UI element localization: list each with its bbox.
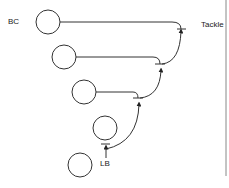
curved-arrow-2: [140, 70, 161, 98]
diagram-canvas: [0, 0, 229, 188]
route-line-3: [96, 92, 138, 98]
play-diagram: BC Tackle LB: [0, 0, 229, 188]
player-circle-2: [52, 45, 76, 69]
player-circle-3: [72, 80, 96, 104]
player-circle-1: [36, 10, 60, 34]
curved-arrow-1: [106, 104, 139, 149]
label-tackle: Tackle: [201, 21, 224, 29]
label-bc: BC: [8, 18, 19, 26]
curved-arrow-3: [162, 31, 181, 64]
label-lb: LB: [100, 160, 110, 168]
player-circle-5: [68, 153, 92, 177]
player-circle-4: [93, 116, 117, 140]
route-line-1: [60, 22, 181, 29]
route-line-2: [76, 57, 160, 64]
